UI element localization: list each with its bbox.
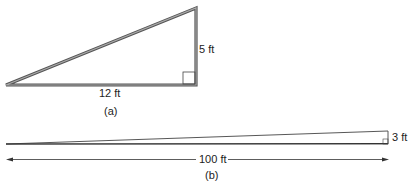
dimension-arrow-b [6, 158, 389, 162]
triangle-b [6, 131, 388, 144]
caption-b: (b) [205, 169, 218, 181]
triangle-a [6, 8, 196, 85]
length-label-b: 100 ft [199, 153, 227, 165]
caption-a: (a) [104, 105, 117, 117]
right-angle-marker-a [183, 72, 195, 84]
height-label-a: 5 ft [199, 43, 214, 55]
height-label-b: 3 ft [392, 131, 407, 143]
base-label-a: 12 ft [99, 87, 120, 99]
